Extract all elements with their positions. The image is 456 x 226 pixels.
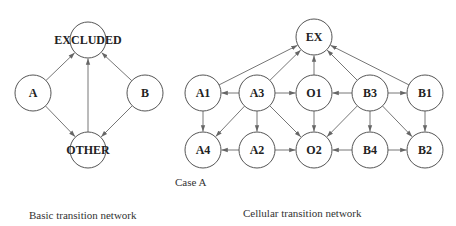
edge-b3-to-b2: [382, 106, 412, 137]
cellular-transition-network: EXA1A3O1B3B1A4A2O2B4B2: [185, 19, 443, 168]
node-label: B3: [363, 86, 377, 100]
edge-b3-to-ex: [327, 50, 357, 80]
edge-a3-to-ex: [270, 50, 301, 80]
edge-a-to-other: [45, 106, 75, 137]
cellular-network-caption: Cellular transition network: [243, 207, 362, 219]
edge-a3-to-a4: [216, 106, 245, 137]
basic-network-caption: Basic transition network: [29, 209, 137, 221]
node-other: OTHER: [66, 132, 110, 168]
node-label: A3: [250, 86, 265, 100]
node-label: EX: [306, 30, 323, 44]
basic-nodes: EXCLUDEDABOTHER: [15, 22, 163, 168]
node-b3: B3: [352, 75, 388, 111]
node-label: B: [141, 86, 149, 100]
edge-a-to-excluded: [46, 53, 75, 81]
node-label: A: [29, 86, 38, 100]
node-label: A1: [196, 86, 211, 100]
edge-b-to-other: [101, 106, 132, 137]
node-b2: B2: [407, 132, 443, 168]
node-label: OTHER: [66, 143, 110, 157]
node-label: EXCLUDED: [54, 33, 122, 47]
node-a4: A4: [185, 132, 221, 168]
basic-edges: [45, 53, 132, 137]
cellular-nodes: EXA1A3O1B3B1A4A2O2B4B2: [185, 19, 443, 168]
basic-transition-network: EXCLUDEDABOTHER: [15, 22, 163, 168]
node-label: A2: [250, 143, 265, 157]
node-label: B2: [418, 143, 432, 157]
edge-b3-to-o2: [327, 106, 357, 137]
node-ex: EX: [296, 19, 332, 55]
node-o2: O2: [296, 132, 332, 168]
node-label: O2: [306, 143, 321, 157]
node-a2: A2: [239, 132, 275, 168]
node-label: A4: [196, 143, 211, 157]
node-b: B: [127, 75, 163, 111]
node-o1: O1: [296, 75, 332, 111]
edge-b-to-excluded: [102, 53, 132, 81]
node-label: B4: [363, 143, 377, 157]
case-label: Case A: [175, 176, 206, 188]
node-b1: B1: [407, 75, 443, 111]
node-excluded: EXCLUDED: [54, 22, 122, 58]
node-label: O1: [306, 86, 321, 100]
edge-a3-to-o2: [270, 106, 301, 137]
transition-diagram-canvas: EXCLUDEDABOTHER EXA1A3O1B3B1A4A2O2B4B2: [0, 0, 456, 226]
node-a3: A3: [239, 75, 275, 111]
node-b4: B4: [352, 132, 388, 168]
node-label: B1: [418, 86, 432, 100]
node-a1: A1: [185, 75, 221, 111]
node-a: A: [15, 75, 51, 111]
